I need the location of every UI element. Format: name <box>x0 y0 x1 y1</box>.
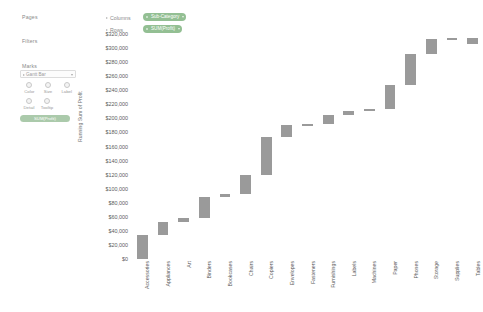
x-tick-label: Accessories <box>144 261 150 289</box>
y-tick-label: $20,000 <box>80 242 128 248</box>
pages-shelf-label: Pages <box>22 14 38 20</box>
bar-copiers[interactable] <box>261 137 272 176</box>
bar-supplies[interactable] <box>447 38 458 40</box>
x-tick-label: Tables <box>475 261 481 276</box>
mark-type-dropdown[interactable]: Gantt Bar <box>20 70 76 78</box>
x-tick-label: Fasteners <box>310 261 316 284</box>
marks-color-button[interactable]: Color <box>20 82 39 94</box>
x-tick-label: Chairs <box>248 261 254 276</box>
bar-fasteners[interactable] <box>302 124 313 126</box>
y-tick-label: $80,000 <box>80 200 128 206</box>
x-axis-labels: AccessoriesAppliancesArtBindersBookcases… <box>132 259 483 312</box>
x-tick-label: Machines <box>371 261 377 283</box>
label-icon <box>64 82 70 88</box>
marks-tooltip-button[interactable]: Tooltip <box>38 98 56 110</box>
x-tick-label: Storage <box>433 261 439 279</box>
chevron-down-icon <box>178 28 180 30</box>
waterfall-chart: Running Sum of Profit $320,000$300,000$2… <box>78 34 483 312</box>
bar-bookcases[interactable] <box>220 194 231 196</box>
x-tick-label: Furnishings <box>330 261 336 288</box>
size-icon <box>45 82 51 88</box>
chevron-right-icon[interactable] <box>106 17 108 19</box>
y-tick-label: $140,000 <box>80 158 128 164</box>
chevron-right-icon <box>23 74 25 76</box>
y-tick-label: $260,000 <box>80 73 128 79</box>
marks-tooltip-pill[interactable]: SUM(Profit) <box>20 115 70 122</box>
color-icon <box>26 82 32 88</box>
x-tick-label: Paper <box>392 261 398 275</box>
bar-envelopes[interactable] <box>281 125 292 137</box>
marks-buttons-row-2: Detail Tooltip <box>20 98 56 110</box>
y-tick-label: $160,000 <box>80 144 128 150</box>
marks-shelf-label: Marks <box>22 63 37 69</box>
bar-chairs[interactable] <box>240 175 251 194</box>
rows-pill-label: SUM(Profit) <box>151 26 175 31</box>
bar-paper[interactable] <box>385 85 396 109</box>
x-tick-label: Phones <box>413 261 419 279</box>
y-tick-label: $200,000 <box>80 115 128 121</box>
bar-binders[interactable] <box>199 197 210 218</box>
x-tick-label: Labels <box>351 261 357 276</box>
x-tick-label: Bookcases <box>227 261 233 286</box>
dimension-icon <box>146 16 149 19</box>
y-tick-label: $300,000 <box>80 45 128 51</box>
x-tick-label: Art <box>186 261 192 268</box>
y-tick-label: $0 <box>80 256 128 262</box>
x-tick-label: Binders <box>206 261 212 279</box>
columns-shelf-label: Columns <box>110 15 130 21</box>
tableau-worksheet: Pages Filters Marks Gantt Bar Color Size <box>0 0 483 312</box>
bar-storage[interactable] <box>426 39 437 54</box>
x-tick-label: Copiers <box>268 261 274 279</box>
x-tick-label: Appliances <box>165 261 171 286</box>
bar-appliances[interactable] <box>158 222 169 235</box>
x-tick-label: Supplies <box>454 261 460 281</box>
y-tick-label: $120,000 <box>80 172 128 178</box>
y-tick-label: $40,000 <box>80 228 128 234</box>
y-tick-label: $320,000 <box>80 31 128 37</box>
bar-tables[interactable] <box>467 38 478 44</box>
bar-art[interactable] <box>178 218 189 223</box>
marks-size-button[interactable]: Size <box>39 82 58 94</box>
bar-machines[interactable] <box>364 109 375 111</box>
marks-label-label: Label <box>57 89 76 94</box>
y-tick-label: $280,000 <box>80 59 128 65</box>
rows-pill-sum-profit[interactable]: SUM(Profit) <box>143 25 182 33</box>
y-tick-label: $240,000 <box>80 87 128 93</box>
plot-area <box>132 34 483 259</box>
columns-shelf: Columns <box>106 15 130 21</box>
bar-phones[interactable] <box>405 54 416 85</box>
y-tick-label: $220,000 <box>80 101 128 107</box>
chevron-down-icon <box>182 16 184 18</box>
marks-detail-button[interactable]: Detail <box>20 98 38 110</box>
detail-icon <box>26 98 32 104</box>
bar-accessories[interactable] <box>137 235 148 259</box>
measure-icon <box>146 28 149 31</box>
mark-type-value: Gantt Bar <box>26 72 46 77</box>
x-tick-label: Envelopes <box>289 261 295 285</box>
marks-buttons-row-1: Color Size Label <box>20 82 76 94</box>
bar-labels[interactable] <box>343 111 354 115</box>
marks-tooltip-label: Tooltip <box>38 105 56 110</box>
marks-color-label: Color <box>20 89 39 94</box>
filters-shelf-label: Filters <box>22 38 38 44</box>
chevron-down-icon <box>71 74 73 76</box>
y-axis-ticks: $320,000$300,000$280,000$260,000$240,000… <box>78 34 128 259</box>
tooltip-icon <box>44 98 50 104</box>
marks-label-button[interactable]: Label <box>57 82 76 94</box>
marks-detail-label: Detail <box>20 105 38 110</box>
marks-card: Gantt Bar Color Size Label <box>20 70 76 122</box>
shelf-panel: Pages Filters Marks Gantt Bar Color Size <box>0 0 78 312</box>
y-tick-label: $60,000 <box>80 214 128 220</box>
marks-size-label: Size <box>39 89 58 94</box>
y-tick-label: $180,000 <box>80 129 128 135</box>
y-tick-label: $100,000 <box>80 186 128 192</box>
columns-pill-label: Sub-Category <box>151 14 179 19</box>
columns-pill-sub-category[interactable]: Sub-Category <box>143 13 186 21</box>
bar-furnishings[interactable] <box>323 115 334 124</box>
